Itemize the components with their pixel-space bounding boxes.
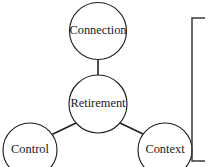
node-control-label: Control bbox=[11, 142, 49, 156]
diagram-canvas: Connection Retirement Control Context bbox=[0, 0, 209, 167]
connector-retirement-control bbox=[53, 123, 76, 134]
concept-diagram: Connection Retirement Control Context bbox=[0, 0, 209, 167]
right-bracket-path bbox=[192, 18, 205, 161]
connector-retirement-context bbox=[120, 123, 143, 134]
node-context[interactable]: Context bbox=[138, 123, 192, 167]
node-control[interactable]: Control bbox=[3, 123, 57, 167]
node-context-label: Context bbox=[145, 142, 185, 156]
node-retirement[interactable]: Retirement bbox=[69, 75, 127, 133]
node-retirement-label: Retirement bbox=[70, 96, 126, 110]
node-connection-label: Connection bbox=[69, 23, 126, 37]
node-connection[interactable]: Connection bbox=[69, 3, 126, 60]
right-bracket bbox=[192, 18, 205, 161]
